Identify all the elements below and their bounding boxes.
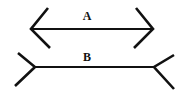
line-b-right-tail <box>154 55 174 89</box>
line-b-label: B <box>83 50 91 64</box>
line-a-figure: A <box>31 8 153 48</box>
muller-lyer-diagram: A B <box>0 0 181 95</box>
line-a-label: A <box>83 9 92 23</box>
line-b-figure: B <box>15 50 174 89</box>
line-b-left-tail <box>15 53 35 86</box>
